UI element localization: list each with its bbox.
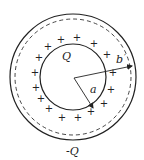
radius-a-label: a	[90, 83, 97, 96]
radius-b-label: b	[116, 53, 123, 66]
plus-charge-mark: +	[35, 52, 43, 63]
concentric-spheres-diagram: ++++++++++++++++ Q a b ′ -Q	[0, 0, 144, 160]
plus-charge-mark: +	[44, 41, 52, 52]
inner-sphere-circle	[40, 44, 106, 110]
inner-charge-label: Q	[62, 50, 71, 63]
plus-charge-mark: +	[37, 93, 45, 104]
plus-charge-mark: +	[58, 112, 66, 123]
positive-charge-marks: ++++++++++++++++	[31, 32, 117, 123]
plus-charge-mark: +	[32, 82, 40, 93]
plus-charge-mark: +	[90, 38, 98, 49]
plus-charge-mark: +	[103, 49, 111, 60]
plus-charge-mark: +	[45, 103, 53, 114]
plus-charge-mark: +	[74, 112, 82, 123]
plus-charge-mark: +	[87, 106, 95, 117]
plus-charge-mark: +	[73, 32, 81, 43]
radius-b-arrow	[74, 66, 132, 78]
radius-b-prime-mark: ′	[124, 52, 126, 61]
outer-charge-label: -Q	[66, 145, 79, 158]
plus-charge-mark: +	[57, 34, 65, 45]
plus-charge-mark: +	[31, 67, 39, 78]
plus-charge-mark: +	[100, 98, 108, 109]
plus-charge-mark: +	[109, 67, 117, 78]
plus-charge-mark: +	[107, 84, 115, 95]
